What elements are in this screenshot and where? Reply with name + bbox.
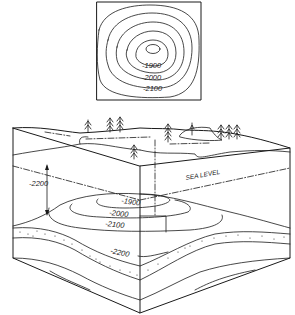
tree-icon xyxy=(218,125,224,139)
map-label-1900: -1900 xyxy=(142,61,162,70)
terrain-line xyxy=(170,143,210,144)
stippled-bed-top xyxy=(13,228,290,266)
structure-contour-2100 xyxy=(48,208,222,231)
contour-crest xyxy=(146,45,160,54)
sea-level-label: SEA LEVEL xyxy=(185,168,221,181)
tree-icon xyxy=(107,118,113,132)
tree-icon xyxy=(131,145,137,159)
well-connector xyxy=(140,216,166,232)
terrain-line xyxy=(13,144,140,155)
terrain-line xyxy=(180,127,222,140)
contour-2200-line xyxy=(138,252,168,257)
block-label-2100: -2100 xyxy=(105,219,126,230)
block-label-1900: -1900 xyxy=(121,196,142,208)
block-diagram: SEA LEVEL -2200 -1900 -2000 -2100 xyxy=(13,127,290,313)
terrain-line xyxy=(86,137,150,139)
terrain-line xyxy=(140,150,290,157)
block-top-surface xyxy=(13,128,290,166)
stratum-line xyxy=(50,271,90,290)
terrain-line xyxy=(79,137,88,144)
stipple-dots xyxy=(19,230,284,275)
depth-label-2200: -2200 xyxy=(29,179,49,188)
map-label-2100: -2100 xyxy=(143,84,163,93)
arrow-head-up xyxy=(45,164,49,170)
tree-icon xyxy=(165,124,171,142)
map-label-2000: -2000 xyxy=(142,73,162,82)
tree-icon xyxy=(234,125,240,139)
tree-icon xyxy=(226,125,232,139)
stratum-line xyxy=(195,270,255,290)
stratum-line xyxy=(13,258,290,300)
structure-contour xyxy=(13,193,290,228)
tree-icon xyxy=(85,120,91,132)
figure: -1900 -2000 -2100 SEA LEVEL -2200 xyxy=(0,0,295,315)
terrain-line xyxy=(45,132,70,136)
block-label-2200: -2200 xyxy=(110,246,131,259)
contour-map: -1900 -2000 -2100 xyxy=(97,2,201,100)
